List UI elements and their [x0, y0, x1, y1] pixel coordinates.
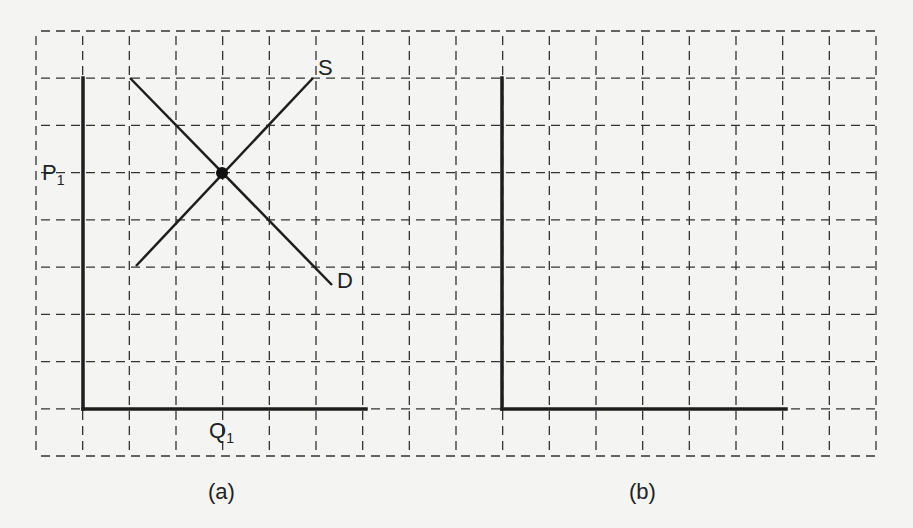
dashed-grid [36, 31, 876, 456]
panel-b-empty-axes [502, 78, 786, 409]
price-subscript: 1 [57, 172, 65, 188]
panel-b-caption: (b) [629, 479, 656, 505]
demand-curve-label: D [337, 268, 353, 294]
diagram-canvas [0, 0, 913, 528]
price-letter: P [42, 160, 57, 185]
quantity-subscript: 1 [226, 430, 234, 446]
demand-curve [130, 78, 332, 285]
equilibrium-price-label: P1 [42, 160, 64, 188]
quantity-letter: Q [209, 418, 226, 443]
supply-curve-label: S [318, 55, 333, 81]
equilibrium-quantity-label: Q1 [209, 418, 234, 446]
panel-a-caption: (a) [208, 479, 235, 505]
panel-a-supply-demand [83, 78, 366, 409]
equilibrium-point [216, 167, 228, 179]
